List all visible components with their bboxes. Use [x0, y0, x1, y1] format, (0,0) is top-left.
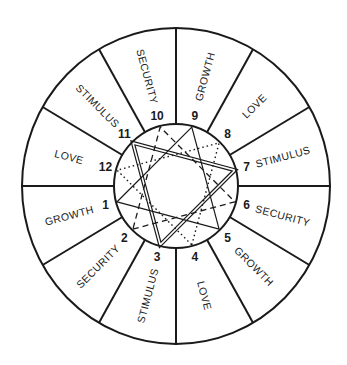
sector-label-love: LOVE	[195, 280, 214, 312]
house-number-11: 11	[118, 127, 131, 141]
house-number-8: 8	[224, 127, 231, 141]
sector-label-love: LOVE	[239, 91, 268, 120]
house-numbers: 123456789101112	[99, 109, 250, 264]
sector-dividers	[22, 28, 330, 344]
sector-label-stimulus: STIMULUS	[254, 144, 311, 170]
house-number-1: 1	[102, 198, 109, 212]
sector-label-growth: GROWTH	[192, 51, 217, 103]
house-number-7: 7	[243, 160, 250, 174]
house-number-3: 3	[154, 250, 161, 264]
sector-label-growth: GROWTH	[43, 203, 95, 228]
house-number-4: 4	[192, 250, 199, 264]
house-number-9: 9	[192, 109, 199, 123]
sector-label-love: LOVE	[53, 147, 85, 166]
house-number-12: 12	[99, 160, 113, 174]
sector-label-stimulus: STIMULUS	[74, 82, 122, 130]
aspect-triangles	[117, 127, 235, 245]
astrology-house-wheel: GROWTHSECURITYSTIMULUSLOVEGROWTHSECURITY…	[0, 0, 347, 365]
house-number-6: 6	[243, 198, 250, 212]
sector-label-growth: GROWTH	[232, 244, 276, 288]
sector-label-security: SECURITY	[74, 242, 122, 290]
house-number-5: 5	[224, 231, 231, 245]
house-number-10: 10	[150, 109, 164, 123]
sector-label-stimulus: STIMULUS	[134, 267, 160, 324]
sector-label-security: SECURITY	[134, 48, 160, 105]
house-number-2: 2	[121, 231, 128, 245]
sector-label-security: SECURITY	[254, 202, 311, 228]
